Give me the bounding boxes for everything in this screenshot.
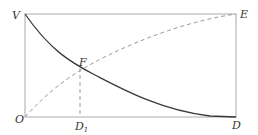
label-d1-sub: 1 <box>84 126 88 134</box>
label-v: V <box>12 9 21 22</box>
rectangle-frame <box>25 14 236 117</box>
label-d1: D1 <box>74 120 88 134</box>
label-d1-main: D <box>74 120 84 133</box>
solid-curve-v-to-d <box>25 14 236 117</box>
label-e: E <box>239 8 248 21</box>
label-o: O <box>15 113 24 126</box>
label-f: F <box>78 56 87 69</box>
label-d: D <box>231 119 241 132</box>
dashed-curve-o-to-e <box>25 14 236 117</box>
diagram-canvas: V E O D F D1 <box>0 0 258 135</box>
